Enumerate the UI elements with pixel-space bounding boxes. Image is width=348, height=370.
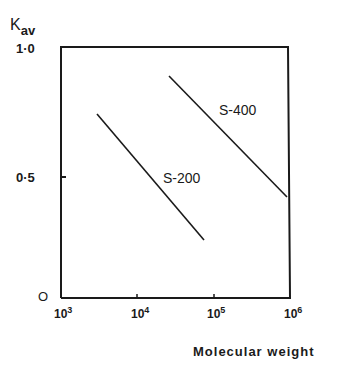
y-tick-label-0-5: 0·5 (16, 170, 35, 185)
series-label-s200: S-200 (163, 170, 201, 186)
x-tick-label-1e4: 104 (131, 305, 149, 321)
y-axis-label: Kav (10, 16, 36, 38)
x-tick-label-1e5: 105 (207, 305, 225, 321)
y-tick-label-1: 1·0 (16, 41, 35, 56)
x-tick-label-1e3: 103 (54, 305, 72, 321)
x-axis-label: Molecular weight (193, 344, 314, 359)
series-label-s400: S-400 (219, 102, 257, 118)
y-tick-label-0: O (38, 289, 48, 304)
x-tick-labels: 103 104 105 106 (54, 305, 302, 321)
selectivity-curve-chart: Kav 1·0 0·5 O 103 104 105 106 Molecular … (0, 0, 348, 370)
x-tick-label-1e6: 106 (284, 305, 302, 321)
